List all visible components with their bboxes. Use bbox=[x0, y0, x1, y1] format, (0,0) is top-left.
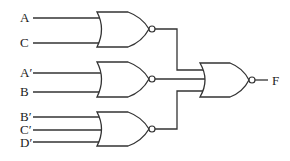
input-label-d-prime: D′ bbox=[20, 135, 32, 150]
interconnect-wires bbox=[155, 29, 206, 129]
nor-gate-3 bbox=[97, 112, 155, 146]
nor-gate-2 bbox=[97, 62, 155, 97]
input-label-c: C bbox=[20, 35, 29, 50]
nor-gate-output bbox=[200, 63, 255, 97]
output-label-f: F bbox=[272, 73, 279, 88]
input-label-a-prime: A′ bbox=[20, 65, 32, 80]
logic-circuit-diagram: A C A′ B B′ C′ D′ F bbox=[0, 0, 290, 161]
input-wires bbox=[33, 18, 105, 142]
input-label-b: B bbox=[20, 84, 29, 99]
input-label-a: A bbox=[20, 10, 30, 25]
nor-gate-1 bbox=[97, 12, 155, 47]
